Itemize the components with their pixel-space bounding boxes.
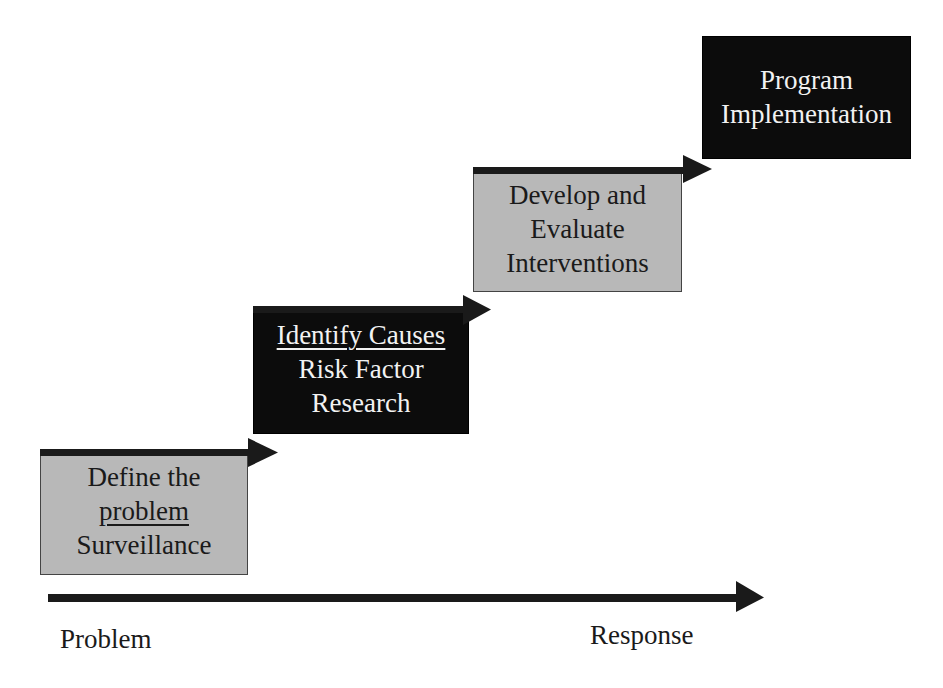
axis-end-label: Response — [590, 620, 694, 651]
problem-response-axis-arrow-icon — [0, 0, 943, 688]
axis-start-label: Problem — [60, 624, 152, 655]
